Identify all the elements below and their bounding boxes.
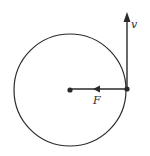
force-arrowhead-icon bbox=[93, 86, 100, 93]
center-point bbox=[67, 87, 72, 92]
velocity-arrowhead-icon bbox=[124, 12, 131, 22]
object-point bbox=[124, 86, 129, 91]
force-label: F bbox=[92, 94, 101, 107]
velocity-label: v bbox=[131, 18, 138, 31]
circular-motion-diagram: v F bbox=[0, 0, 150, 156]
